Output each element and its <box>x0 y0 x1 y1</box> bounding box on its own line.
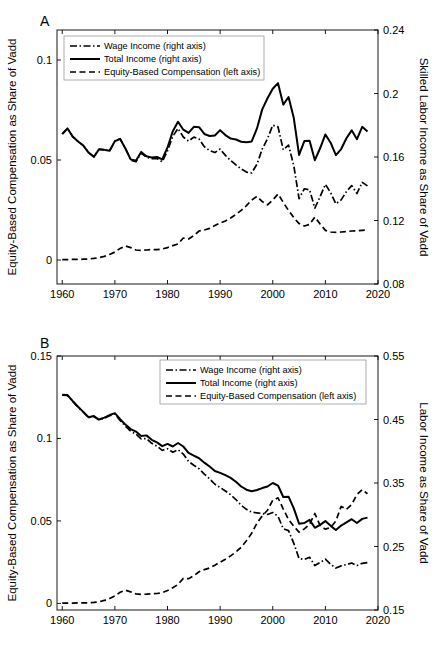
y-left-tick-label: 0.1 <box>37 54 52 66</box>
right-axis-title: Labor Income as Share of Vadd <box>418 402 430 564</box>
x-tick-label: 1970 <box>103 288 127 300</box>
x-tick-label: 1970 <box>103 614 127 626</box>
y-right-tick-label: 0.35 <box>383 477 404 489</box>
x-tick-label: 2000 <box>261 614 285 626</box>
series-line-dashdot <box>62 395 367 568</box>
left-axis-title: Equity-Based Compensation as Share of Va… <box>6 39 18 276</box>
figure-container: A196019701980199020002010202000.050.10.0… <box>0 0 436 645</box>
legend-label: Total Income (right axis) <box>200 378 298 388</box>
x-tick-label: 1990 <box>208 288 232 300</box>
x-tick-label: 2010 <box>313 288 337 300</box>
x-tick-label: 1990 <box>208 614 232 626</box>
legend-label: Equity-Based Compensation (left axis) <box>104 67 260 77</box>
y-left-tick-label: 0.05 <box>31 515 52 527</box>
x-tick-label: 1960 <box>50 614 74 626</box>
x-tick-label: 2000 <box>261 288 285 300</box>
panel-letter-b: B <box>40 335 49 351</box>
chart-panel-b: B196019701980199020002010202000.050.10.1… <box>0 322 436 645</box>
series-line-dashdot <box>62 125 367 208</box>
x-tick-label: 1980 <box>155 614 179 626</box>
x-tick-label: 1980 <box>155 288 179 300</box>
y-left-tick-label: 0.05 <box>31 154 52 166</box>
x-tick-label: 1960 <box>50 288 74 300</box>
y-left-tick-label: 0 <box>46 597 52 609</box>
right-axis-title: Skilled Labor Income as Share of Vadd <box>418 58 430 257</box>
series-line-dashed <box>62 490 367 603</box>
y-right-tick-label: 0.55 <box>383 350 404 362</box>
chart-panel-a: A196019701980199020002010202000.050.10.0… <box>0 0 436 322</box>
left-axis-title: Equity-Based Compensation as Share of Va… <box>6 365 18 602</box>
series-line-solid <box>62 395 367 530</box>
y-right-tick-label: 0.16 <box>383 151 404 163</box>
y-right-tick-label: 0.24 <box>383 24 404 36</box>
y-right-tick-label: 0.12 <box>383 215 404 227</box>
y-left-tick-label: 0.1 <box>37 432 52 444</box>
series-line-solid <box>62 83 367 160</box>
chart-svg-a: A196019701980199020002010202000.050.10.0… <box>0 0 436 322</box>
y-right-tick-label: 0.08 <box>383 278 404 290</box>
y-right-tick-label: 0.45 <box>383 414 404 426</box>
panel-letter-a: A <box>40 13 50 29</box>
y-right-tick-label: 0.15 <box>383 604 404 616</box>
legend-label: Wage Income (right axis) <box>104 41 206 51</box>
chart-svg-b: B196019701980199020002010202000.050.10.1… <box>0 322 436 645</box>
y-left-tick-label: 0.15 <box>31 350 52 362</box>
legend-label: Wage Income (right axis) <box>200 365 302 375</box>
legend-label: Total Income (right axis) <box>104 54 202 64</box>
y-right-tick-label: 0.2 <box>383 88 398 100</box>
series-line-dashed <box>62 194 367 260</box>
y-left-tick-label: 0 <box>46 254 52 266</box>
legend-label: Equity-Based Compensation (left axis) <box>200 391 356 401</box>
y-right-tick-label: 0.25 <box>383 541 404 553</box>
x-tick-label: 2010 <box>313 614 337 626</box>
